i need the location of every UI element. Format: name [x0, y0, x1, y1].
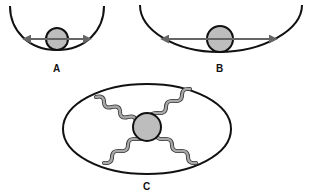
panel-b: B [140, 5, 302, 74]
panel-a: A [10, 6, 104, 74]
label-b: B [216, 63, 223, 74]
label-c: C [143, 181, 150, 192]
ball-c [133, 113, 161, 141]
label-a: A [53, 63, 60, 74]
diagram-canvas: A B C [0, 0, 310, 195]
panel-c: C [63, 84, 231, 192]
